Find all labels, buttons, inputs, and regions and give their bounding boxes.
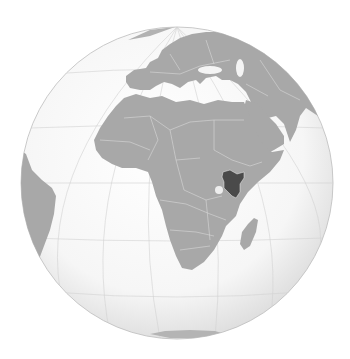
lake-victoria — [215, 186, 223, 194]
black-sea — [198, 66, 222, 74]
orthographic-globe-map — [0, 0, 350, 359]
caspian-sea — [236, 59, 244, 77]
